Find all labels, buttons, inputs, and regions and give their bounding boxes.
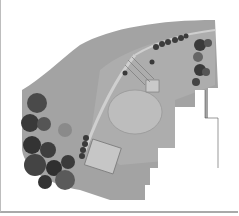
oval-lawn [108,90,162,134]
site-plan [0,0,239,216]
pergola [146,80,159,92]
